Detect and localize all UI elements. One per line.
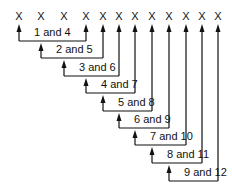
pair-label: 7 and 10 <box>150 131 193 142</box>
x-mark: X <box>214 11 221 22</box>
arrowhead-icon <box>17 24 22 32</box>
x-mark: X <box>131 11 138 22</box>
x-mark: X <box>99 11 106 22</box>
arrowhead-icon <box>167 165 172 173</box>
arrowhead-icon <box>150 147 155 155</box>
arrowhead-icon <box>117 24 122 32</box>
arrowhead-icon <box>84 24 89 32</box>
arrowhead-icon <box>101 95 106 103</box>
arrowhead-icon <box>101 24 106 32</box>
arrowhead-icon <box>216 24 221 32</box>
arrowhead-icon <box>133 24 138 32</box>
pair-label: 8 and 11 <box>167 149 209 160</box>
arrowhead-icon <box>200 24 205 32</box>
x-mark: X <box>82 11 89 22</box>
pair-label: 2 and 5 <box>56 44 93 55</box>
x-mark: X <box>37 11 44 22</box>
arrowhead-icon <box>167 24 172 32</box>
x-mark: X <box>165 11 172 22</box>
pair-label: 5 and 8 <box>118 97 155 108</box>
x-mark: X <box>15 11 22 22</box>
pair-label: 3 and 6 <box>79 62 116 73</box>
arrowhead-icon <box>133 130 138 138</box>
pair-label: 9 and 12 <box>184 167 227 178</box>
arrowhead-icon <box>62 60 67 68</box>
pairing-diagram: XXXXXXXXXXXX 1 and 42 and 53 and 64 and … <box>0 0 232 192</box>
arrowhead-icon <box>117 113 122 121</box>
x-mark: X <box>148 11 155 22</box>
pair-label: 1 and 4 <box>34 27 71 38</box>
arrowhead-icon <box>184 24 189 32</box>
arrowhead-icon <box>84 78 89 86</box>
pair-label: 4 and 7 <box>101 79 138 90</box>
arrowhead-icon <box>150 24 155 32</box>
pair-label: 6 and 9 <box>134 114 171 125</box>
arrowhead-icon <box>39 43 44 51</box>
x-mark: X <box>60 11 67 22</box>
x-mark: X <box>182 11 189 22</box>
x-mark: X <box>198 11 205 22</box>
x-mark: X <box>115 11 122 22</box>
